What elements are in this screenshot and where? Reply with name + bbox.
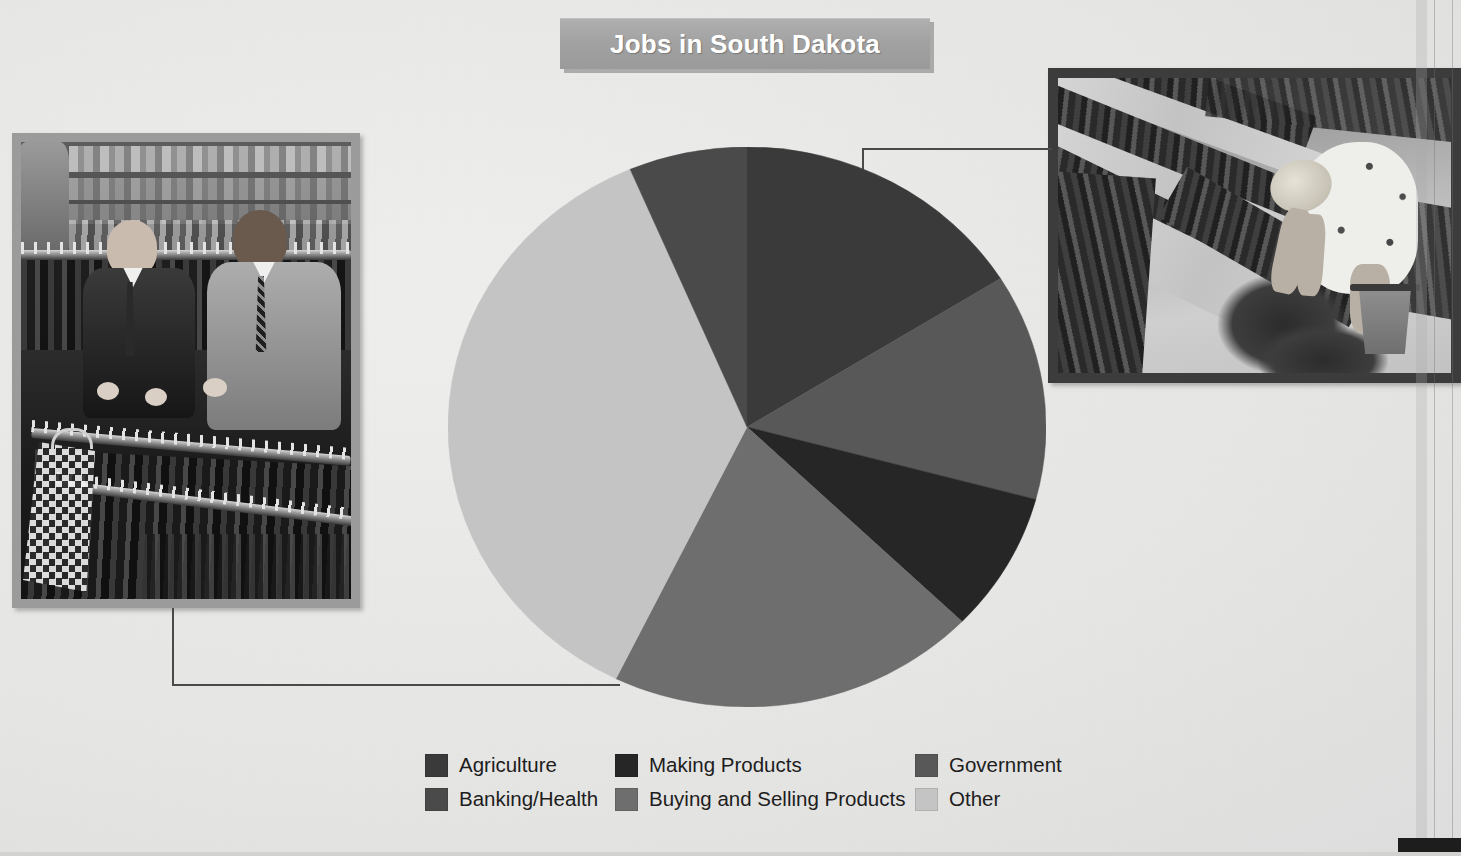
legend-swatch-buying-selling-products bbox=[615, 788, 638, 811]
farm-field-photo-canvas bbox=[1058, 78, 1451, 373]
chart-legend: Agriculture Making Products Government B… bbox=[425, 748, 1085, 816]
page-title-banner: Jobs in South Dakota bbox=[560, 18, 930, 69]
page-title: Jobs in South Dakota bbox=[610, 29, 880, 60]
legend-label-making-products: Making Products bbox=[649, 753, 802, 777]
pie-chart-svg: Agriculture: 16%Government: 13%Making Pr… bbox=[448, 147, 1046, 707]
folded-garment-stack bbox=[141, 534, 351, 599]
salesman-figure bbox=[207, 210, 347, 460]
legend-item-government[interactable]: Government bbox=[915, 753, 1085, 777]
legend-row-1: Agriculture Making Products Government bbox=[425, 748, 1085, 782]
legend-label-government: Government bbox=[949, 753, 1062, 777]
legend-label-other: Other bbox=[949, 787, 1000, 811]
legend-swatch-other bbox=[915, 788, 938, 811]
clothing-store-photo-canvas bbox=[21, 142, 351, 599]
customer-hand bbox=[97, 382, 119, 400]
salesman-head bbox=[233, 210, 287, 270]
background-figure bbox=[21, 142, 69, 252]
legend-item-other[interactable]: Other bbox=[915, 787, 1085, 811]
salesman-hand bbox=[203, 378, 227, 397]
page-margin-rule bbox=[1408, 0, 1461, 856]
legend-swatch-agriculture bbox=[425, 754, 448, 777]
legend-item-banking-health[interactable]: Banking/Health bbox=[425, 787, 615, 811]
legend-swatch-making-products bbox=[615, 754, 638, 777]
customer-figure bbox=[79, 220, 209, 450]
page-root: Jobs in South Dakota bbox=[0, 0, 1461, 856]
farm-field-photo bbox=[1048, 68, 1461, 383]
legend-item-agriculture[interactable]: Agriculture bbox=[425, 753, 615, 777]
salesman-torso bbox=[207, 262, 341, 430]
store-shelf-second bbox=[69, 178, 351, 200]
legend-label-banking-health: Banking/Health bbox=[459, 787, 598, 811]
pie-slice-group: Agriculture: 16%Government: 13%Making Pr… bbox=[448, 147, 1046, 707]
store-shelf-top bbox=[69, 146, 351, 172]
crop-row-left-foreground bbox=[1058, 170, 1156, 373]
legend-swatch-government bbox=[915, 754, 938, 777]
connector-retail-vertical bbox=[172, 608, 174, 686]
legend-item-buying-selling-products[interactable]: Buying and Selling Products bbox=[615, 787, 915, 811]
customer-hand-2 bbox=[145, 388, 167, 406]
legend-swatch-banking-health bbox=[425, 788, 448, 811]
clothing-store-photo bbox=[12, 133, 360, 608]
legend-item-making-products[interactable]: Making Products bbox=[615, 753, 915, 777]
margin-line-1 bbox=[1434, 0, 1435, 856]
legend-row-2: Banking/Health Buying and Selling Produc… bbox=[425, 782, 1085, 816]
pie-chart: Agriculture: 16%Government: 13%Making Pr… bbox=[448, 147, 1046, 707]
page-bottom-edge bbox=[0, 852, 1461, 856]
margin-line-2 bbox=[1452, 0, 1453, 856]
legend-label-agriculture: Agriculture bbox=[459, 753, 557, 777]
margin-band bbox=[1416, 0, 1427, 856]
legend-label-buying-selling-products: Buying and Selling Products bbox=[649, 787, 905, 811]
